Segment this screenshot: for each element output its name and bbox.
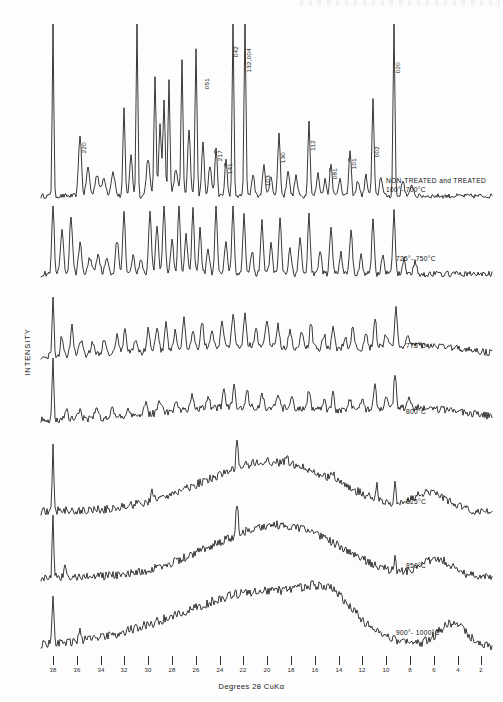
xrd-figure: INTENSITY Degrees 2θ CuKα 38363432302826… (0, 0, 503, 702)
trace-path (41, 24, 492, 198)
trace-path (41, 206, 492, 277)
trace-path (41, 440, 492, 515)
diffractogram-traces (0, 0, 503, 702)
trace-path (41, 358, 492, 423)
trace-path (41, 297, 492, 359)
trace-path (41, 506, 492, 581)
trace-path (41, 581, 492, 650)
